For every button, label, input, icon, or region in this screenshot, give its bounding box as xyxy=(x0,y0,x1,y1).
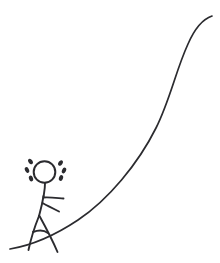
figure-leg-left xyxy=(29,216,40,250)
figure-neck xyxy=(44,183,46,197)
figure-arm-lower xyxy=(43,203,60,212)
sweat-drop-icon xyxy=(58,174,64,181)
figure-torso xyxy=(39,196,44,216)
sweat-drop-icon xyxy=(27,158,34,165)
sweat-drop-icon xyxy=(61,167,67,174)
sweat-drop-icon xyxy=(24,166,30,173)
sweat-drop-icon xyxy=(57,159,64,166)
sweat-drop-group-left xyxy=(24,158,34,182)
sketch-svg xyxy=(0,0,220,263)
sweat-drop-icon xyxy=(28,175,34,182)
figure-hip-brace xyxy=(33,231,48,233)
sweat-drop-group-right xyxy=(57,159,67,181)
figure-head-icon xyxy=(34,161,56,183)
sketch-canvas xyxy=(0,0,220,263)
figure-arm-upper xyxy=(44,197,64,198)
